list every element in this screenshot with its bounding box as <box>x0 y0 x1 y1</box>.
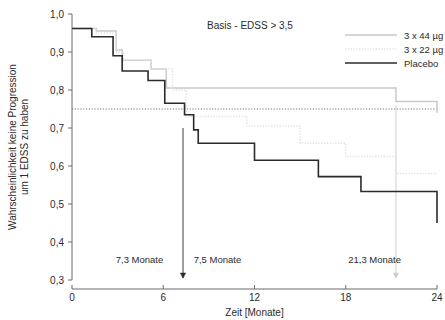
x-tick-label: 18 <box>340 292 352 303</box>
y-tick-label: 0,3 <box>50 275 64 286</box>
y-axis-title-line2: um 1 EDSS zu haben <box>19 99 30 195</box>
annotation-marker <box>180 128 185 278</box>
legend-label-1: 3 x 22 µg <box>404 44 443 55</box>
legend-item-2: Placebo <box>345 58 438 69</box>
y-tick-label: 1,0 <box>50 9 64 20</box>
survival-curve-chart: 0,30,40,50,60,70,80,91,006121824Zeit [Mo… <box>0 0 445 320</box>
chart-title: Basis - EDSS > 3,5 <box>207 20 293 31</box>
y-tick-label: 0,5 <box>50 199 64 210</box>
y-tick-label: 0,6 <box>50 161 64 172</box>
kaplan-meier-figure: 0,30,40,50,60,70,80,91,006121824Zeit [Mo… <box>0 0 445 320</box>
annotation-arrowhead-icon <box>180 273 185 278</box>
y-tick-label: 0,7 <box>50 123 64 134</box>
x-tick-label: 24 <box>431 292 443 303</box>
annotation-label: 7,5 Monate <box>194 254 242 265</box>
y-tick-label: 0,8 <box>50 85 64 96</box>
legend-item-0: 3 x 44 µg <box>345 30 443 41</box>
y-axis-title-line1: Wahrscheinlichkeit keine Progression <box>7 64 18 230</box>
x-tick-label: 6 <box>160 292 166 303</box>
legend-label-2: Placebo <box>404 58 438 69</box>
annotation-label: 21,3 Monate <box>348 254 401 265</box>
legend-label-0: 3 x 44 µg <box>404 30 443 41</box>
x-tick-label: 0 <box>69 292 75 303</box>
legend-item-1: 3 x 22 µg <box>345 44 443 55</box>
x-tick-label: 12 <box>249 292 261 303</box>
x-axis-title: Zeit [Monate] <box>225 307 284 318</box>
y-tick-label: 0,9 <box>50 47 64 58</box>
y-tick-label: 0,4 <box>50 237 64 248</box>
annotation-arrowhead-icon <box>393 273 398 278</box>
annotation-label: 7,3 Monate <box>116 254 164 265</box>
